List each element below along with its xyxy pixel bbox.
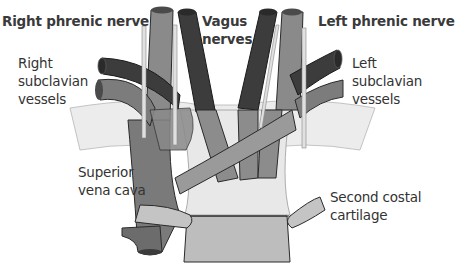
label-right-phrenic-nerve: Right phrenic nerve bbox=[2, 12, 149, 30]
label-costal-line1: Second costal bbox=[330, 188, 421, 206]
label-costal-line2: cartilage bbox=[330, 206, 421, 224]
label-right-subclavian-vessels: Right subclavian vessels bbox=[18, 54, 88, 108]
label-right-subclavian-line3: vessels bbox=[18, 90, 88, 108]
label-left-subclavian-vessels: Left subclavian vessels bbox=[352, 54, 422, 108]
label-left-subclavian-line3: vessels bbox=[352, 90, 422, 108]
label-vagus-line1: Vagus bbox=[202, 12, 252, 30]
label-svc-line2: vena cava bbox=[78, 181, 146, 199]
left-phrenic-nerve bbox=[302, 28, 306, 148]
label-svc-line1: Superior bbox=[78, 163, 146, 181]
label-vagus-nerves: Vagus nerves bbox=[202, 12, 252, 48]
label-vagus-line2: nerves bbox=[202, 30, 252, 48]
label-second-costal-cartilage: Second costal cartilage bbox=[330, 188, 421, 224]
right-vagus-nerve bbox=[173, 25, 177, 145]
label-superior-vena-cava: Superior vena cava bbox=[78, 163, 146, 199]
label-left-subclavian-line1: Left bbox=[352, 54, 422, 72]
right-phrenic-nerve bbox=[142, 26, 146, 138]
left-second-costal-cartilage bbox=[287, 197, 325, 228]
sternum-body bbox=[184, 216, 290, 262]
label-left-phrenic-nerve: Left phrenic nerve bbox=[318, 12, 455, 30]
label-right-subclavian-line2: subclavian bbox=[18, 72, 88, 90]
label-left-subclavian-line2: subclavian bbox=[352, 72, 422, 90]
label-right-subclavian-line1: Right bbox=[18, 54, 88, 72]
